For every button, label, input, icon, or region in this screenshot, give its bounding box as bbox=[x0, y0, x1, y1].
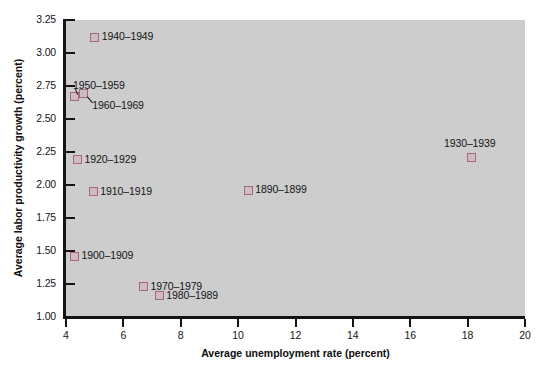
y-tick-label: 1.00 bbox=[22, 310, 56, 322]
data-point-marker bbox=[155, 291, 164, 300]
y-tick-mark bbox=[66, 52, 75, 54]
x-tick-label: 18 bbox=[453, 329, 483, 341]
x-tick-mark bbox=[237, 319, 239, 327]
x-tick-label: 4 bbox=[51, 329, 81, 341]
y-tick-label: 3.25 bbox=[22, 13, 56, 25]
y-tick-label: 2.50 bbox=[22, 112, 56, 124]
y-tick-mark bbox=[66, 316, 75, 318]
x-tick-mark bbox=[65, 319, 67, 327]
data-point-marker bbox=[90, 33, 99, 42]
x-tick-mark bbox=[295, 319, 297, 327]
data-point-marker bbox=[467, 153, 476, 162]
data-point-label: 1890–1899 bbox=[255, 183, 307, 195]
y-tick-mark bbox=[66, 118, 75, 120]
y-tick-label: 1.25 bbox=[22, 277, 56, 289]
x-tick-label: 8 bbox=[166, 329, 196, 341]
x-tick-mark bbox=[122, 319, 124, 327]
data-point-label: 1940–1949 bbox=[102, 30, 154, 42]
plot-area bbox=[66, 20, 525, 318]
data-point-label: 1960–1969 bbox=[92, 99, 144, 111]
x-tick-label: 12 bbox=[281, 329, 311, 341]
y-tick-mark bbox=[66, 151, 75, 153]
y-axis-line bbox=[63, 19, 66, 319]
y-tick-label: 2.75 bbox=[22, 79, 56, 91]
x-tick-label: 20 bbox=[510, 329, 540, 341]
data-point-marker bbox=[139, 282, 148, 291]
data-point-marker bbox=[244, 186, 253, 195]
y-tick-mark bbox=[66, 184, 75, 186]
x-tick-mark bbox=[180, 319, 182, 327]
data-point-label: 1920–1929 bbox=[84, 153, 136, 165]
data-point-label: 1930–1939 bbox=[444, 137, 496, 149]
x-tick-label: 10 bbox=[223, 329, 253, 341]
x-tick-mark bbox=[524, 319, 526, 327]
y-tick-label: 3.00 bbox=[22, 46, 56, 58]
data-point-label: 1910–1919 bbox=[100, 185, 152, 197]
x-tick-mark bbox=[467, 319, 469, 327]
data-point-marker bbox=[73, 155, 82, 164]
y-tick-label: 1.50 bbox=[22, 244, 56, 256]
y-tick-mark bbox=[66, 283, 75, 285]
data-point-marker bbox=[70, 252, 79, 261]
data-point-label: 1900–1909 bbox=[82, 249, 134, 261]
x-tick-label: 16 bbox=[395, 329, 425, 341]
data-point-marker bbox=[89, 187, 98, 196]
y-tick-mark bbox=[66, 19, 75, 21]
x-tick-mark bbox=[409, 319, 411, 327]
y-tick-label: 1.75 bbox=[22, 211, 56, 223]
data-point-label: 1980–1989 bbox=[166, 289, 218, 301]
x-tick-label: 14 bbox=[338, 329, 368, 341]
y-tick-mark bbox=[66, 217, 75, 219]
scatter-chart-figure: 1.001.251.501.752.002.252.502.753.003.25… bbox=[0, 0, 544, 373]
x-axis-title: Average unemployment rate (percent) bbox=[66, 347, 525, 359]
y-tick-label: 2.25 bbox=[22, 145, 56, 157]
y-tick-label: 2.00 bbox=[22, 178, 56, 190]
x-tick-label: 6 bbox=[108, 329, 138, 341]
y-axis-title: Average labor productivity growth (perce… bbox=[12, 18, 24, 318]
x-tick-mark bbox=[352, 319, 354, 327]
